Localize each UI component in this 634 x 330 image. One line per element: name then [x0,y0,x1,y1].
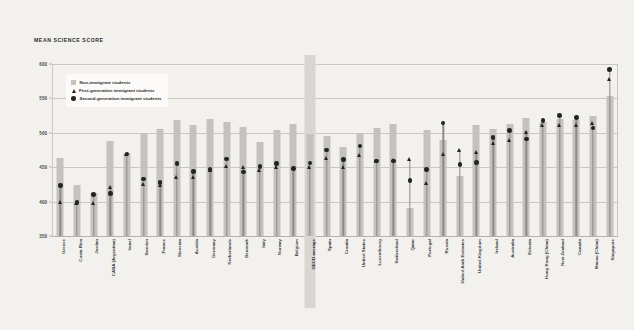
x-axis-label-wrap: Belgium [293,239,294,240]
chart-column[interactable]: Austria [185,64,202,236]
chart-column[interactable]: United States [352,64,369,236]
marker-first-generation [174,175,178,179]
chart-column[interactable]: Portugal [418,64,435,236]
marker-first-generation [224,164,228,168]
y-axis-label-550: 550 [39,96,47,101]
x-axis-label: Austria [195,239,200,254]
x-axis-label: New Zealand [561,239,566,266]
marker-stem [243,167,244,236]
marker-stem [159,182,160,236]
x-axis-label: Slovenia [178,239,183,257]
chart-column[interactable]: Qatar [402,64,419,236]
x-axis-label: Portugal [428,239,433,257]
legend-item-non-immigrant: Non-immigrant students [71,79,161,86]
marker-second-generation [141,177,146,182]
x-axis-label-wrap: Netherlands [227,239,228,240]
marker-second-generation [458,162,463,167]
chart-column[interactable]: Hong Kong (China) [535,64,552,236]
chart-column[interactable]: Denmark [235,64,252,236]
x-axis-label-wrap: Estonia [526,239,527,240]
x-axis-label-wrap: Costa Rica [77,239,78,240]
marker-second-generation [541,118,546,123]
x-axis-label: Italy [262,239,267,248]
chart-column[interactable]: Luxembourg [368,64,385,236]
marker-first-generation [491,141,495,145]
chart-column[interactable]: Spain [318,64,335,236]
y-axis-label-350: 350 [39,234,47,239]
marker-stem [209,169,210,236]
marker-first-generation [457,148,461,152]
marker-first-generation [524,130,528,134]
x-axis-label-wrap: OECD average [310,239,311,240]
x-axis-label-wrap: Spain [327,239,328,240]
marker-second-generation [58,183,63,188]
chart-column[interactable]: Australia [501,64,518,236]
marker-first-generation [441,152,445,156]
x-axis-label-wrap: Singapore [610,239,611,240]
chart-column[interactable]: OECD average [302,64,319,236]
chart-column[interactable]: Ireland [485,64,502,236]
chart-column[interactable]: Italy [252,64,269,236]
marker-second-generation [391,159,396,164]
marker-stem [309,163,310,236]
x-axis-label: Switzerland [395,239,400,263]
x-axis-label-wrap: Qatar [410,239,411,240]
marker-first-generation [91,201,95,205]
marker-first-generation [108,185,112,189]
marker-second-generation [441,121,446,126]
x-axis-label-wrap: Norway [277,239,278,240]
marker-stem [526,131,527,236]
x-axis-label: Ireland [495,239,500,253]
chart-column[interactable]: Macao (China) [585,64,602,236]
marker-stem [393,160,394,236]
x-axis-label-wrap: Italy [260,239,261,240]
x-axis-label-wrap: Austria [193,239,194,240]
marker-stem [226,159,227,236]
x-axis-label-wrap: Hong Kong (China) [543,239,544,240]
chart-column[interactable]: Germany [202,64,219,236]
marker-stem [409,159,410,236]
chart-column[interactable]: New Zealand [551,64,568,236]
marker-first-generation [540,123,544,127]
x-axis-label-wrap: Sweden [144,239,145,240]
x-axis-label-wrap: Israel [127,239,128,240]
marker-stem [143,179,144,236]
x-axis-label: Germany [212,239,217,258]
x-axis-label: Spain [328,239,333,251]
x-axis-label: Australia [511,239,516,258]
chart-column[interactable]: Singapore [601,64,618,236]
x-axis-label: CABA (Argentina) [112,239,117,276]
x-axis-label: OECD average [312,239,317,270]
x-axis-label: Sweden [145,239,150,256]
marker-stem [259,167,260,236]
chart-column[interactable]: Croatia [335,64,352,236]
marker-first-generation [607,77,611,81]
marker-stem [343,160,344,236]
y-axis-label-400: 400 [39,199,47,204]
x-axis-label-wrap: Jordan [94,239,95,240]
chart-column[interactable]: Canada [568,64,585,236]
chart-column[interactable]: Netherlands [218,64,235,236]
legend-label: Non-immigrant students [80,80,131,85]
chart-column[interactable]: Russia [435,64,452,236]
marker-first-generation [341,165,345,169]
chart-column[interactable]: Belgium [285,64,302,236]
marker-first-generation [58,200,62,204]
chart-column[interactable]: United Arab Emirates [452,64,469,236]
marker-second-generation [108,191,113,196]
chart-column[interactable]: Estonia [518,64,535,236]
marker-second-generation [557,113,562,118]
marker-stem [442,123,443,236]
marker-second-generation [607,67,612,72]
marker-stem [326,150,327,236]
marker-first-generation [474,150,478,154]
marker-second-generation [175,161,180,166]
chart-column[interactable]: Switzerland [385,64,402,236]
gridline-350 [52,236,618,237]
marker-second-generation [524,137,529,142]
marker-first-generation [307,165,311,169]
marker-stem [293,168,294,236]
chart-column[interactable]: Slovenia [169,64,186,236]
chart-column[interactable]: Norway [268,64,285,236]
chart-column[interactable]: United Kingdom [468,64,485,236]
